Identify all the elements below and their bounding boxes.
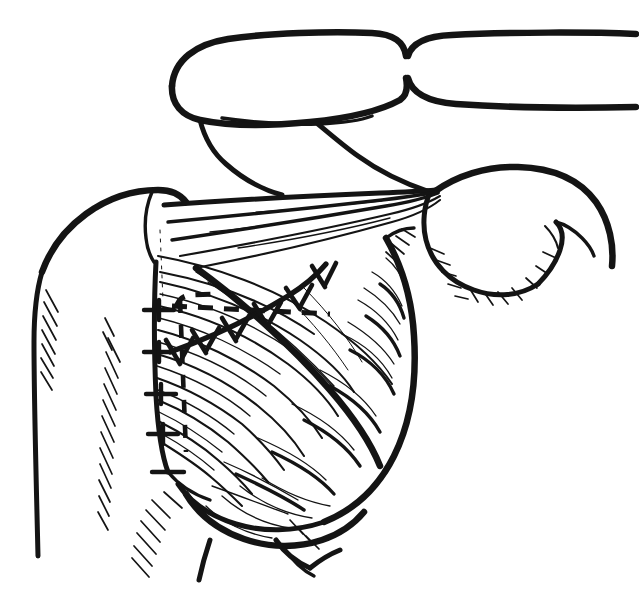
medical-illustration-figure (0, 0, 639, 589)
illustration-canvas (0, 0, 639, 589)
canvas-background (0, 0, 639, 589)
